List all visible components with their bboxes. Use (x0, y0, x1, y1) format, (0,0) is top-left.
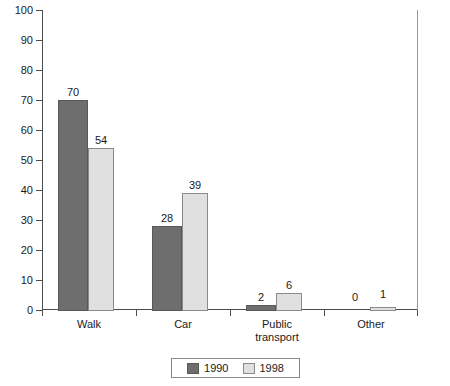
y-axis-label-100: 100 (15, 5, 33, 16)
y-axis-label-0: 0 (27, 305, 33, 316)
y-tick-30 (36, 220, 42, 221)
y-axis-label-50: 50 (21, 155, 33, 166)
y-tick-90 (36, 40, 42, 41)
y-axis-label-30: 30 (21, 215, 33, 226)
y-axis-label-60: 60 (21, 125, 33, 136)
legend-swatch-1990-icon (187, 363, 199, 374)
bar-other-1998 (370, 307, 396, 311)
bar-value-car-1998: 39 (182, 180, 208, 191)
y-tick-20 (36, 250, 42, 251)
bar-value-car-1990: 28 (152, 213, 182, 224)
x-tick-4 (417, 310, 418, 316)
y-tick-60 (36, 130, 42, 131)
chart-legend: 1990 1998 (171, 358, 300, 378)
bar-value-other-1998: 1 (370, 289, 396, 300)
x-axis-label-other: Other (326, 318, 416, 331)
y-axis-label-80: 80 (21, 65, 33, 76)
x-axis-label-car: Car (138, 318, 228, 331)
bar-walk-1990 (58, 100, 88, 311)
bar-value-public-transport-1990: 2 (246, 292, 276, 303)
y-axis-label-90: 90 (21, 35, 33, 46)
bar-value-public-transport-1998: 6 (276, 280, 302, 291)
x-tick-1 (136, 310, 137, 316)
y-tick-40 (36, 190, 42, 191)
x-tick-3 (324, 310, 325, 316)
legend-swatch-1998-icon (243, 363, 255, 374)
x-axis-label-public-transport: Public transport (232, 318, 322, 343)
y-axis-label-20: 20 (21, 245, 33, 256)
bar-car-1990 (152, 226, 182, 311)
y-tick-100 (36, 10, 42, 11)
legend-label-1990: 1990 (204, 363, 228, 374)
y-axis-label-10: 10 (21, 275, 33, 286)
legend-label-1998: 1998 (260, 363, 284, 374)
x-tick-0 (42, 310, 43, 316)
bar-chart: 100 90 80 70 60 50 40 30 20 10 0 70 54 W… (0, 0, 450, 386)
legend-entry-1998: 1998 (243, 363, 284, 374)
plot-right-border (417, 10, 418, 310)
bar-value-walk-1990: 70 (58, 87, 88, 98)
bar-car-1998 (182, 193, 208, 311)
legend-entry-1990: 1990 (187, 363, 228, 374)
bar-public-transport-1990 (246, 305, 276, 311)
bar-public-transport-1998 (276, 293, 302, 311)
y-axis-label-70: 70 (21, 95, 33, 106)
bar-value-other-1990: 0 (340, 292, 370, 303)
x-axis-label-walk: Walk (44, 318, 134, 331)
y-tick-80 (36, 70, 42, 71)
bar-walk-1998 (88, 148, 114, 311)
y-tick-50 (36, 160, 42, 161)
y-axis-label-40: 40 (21, 185, 33, 196)
y-tick-10 (36, 280, 42, 281)
x-tick-2 (230, 310, 231, 316)
y-tick-70 (36, 100, 42, 101)
bar-value-walk-1998: 54 (88, 135, 114, 146)
